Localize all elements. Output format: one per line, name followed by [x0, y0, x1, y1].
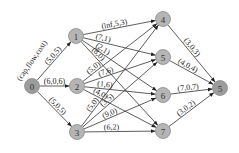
node-n2: 2 — [70, 79, 85, 94]
node-label: 1 — [74, 32, 79, 42]
node-label: 4 — [161, 15, 166, 25]
node-n3: 3 — [70, 125, 85, 140]
node-label: 7 — [161, 127, 166, 137]
edge-label: (6,2) — [104, 123, 120, 132]
flow-network-diagram: (5,0,5)(6,0,6)(5,0,5)(inf,5,3)(7,1)(2,1)… — [0, 0, 239, 153]
node-label: 3 — [75, 128, 80, 138]
edge-label: (6,0,6) — [44, 77, 66, 86]
node-n4: 4 — [156, 12, 171, 27]
node-n0: 0 — [25, 79, 40, 94]
node-label: 0 — [30, 82, 35, 92]
node-label: 5 — [161, 53, 166, 63]
node-n5: 5 — [156, 50, 171, 65]
node-n7: 7 — [156, 124, 171, 139]
node-n6: 6 — [156, 88, 171, 103]
edge-arrow — [84, 131, 155, 132]
edge-label: (3,0,3) — [182, 36, 203, 58]
edge-n3-n7 — [84, 131, 155, 132]
edge-labels-layer: (5,0,5)(6,0,6)(5,0,5)(inf,5,3)(7,1)(2,1)… — [42, 17, 202, 132]
node-sink: 5 — [213, 81, 228, 96]
node-label: 5 — [218, 84, 223, 94]
node-label: 2 — [75, 82, 80, 92]
node-label: 6 — [161, 91, 166, 101]
edge-label: (7,0,7) — [177, 82, 200, 94]
edge-label: (5,0,5) — [47, 95, 69, 117]
node-n1: 1 — [69, 29, 84, 44]
